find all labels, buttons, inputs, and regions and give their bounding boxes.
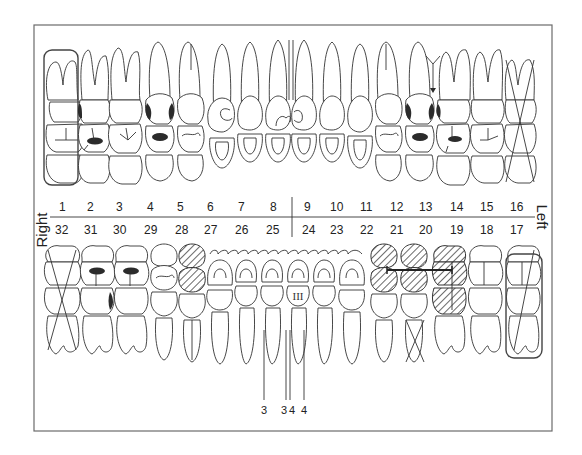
pocket-depth-label: 3 bbox=[281, 404, 287, 416]
tooth-number: 23 bbox=[330, 223, 344, 237]
tooth-32 bbox=[44, 246, 80, 354]
tooth-number: 7 bbox=[238, 200, 245, 214]
tooth-number: 27 bbox=[204, 223, 218, 237]
tooth-number: 4 bbox=[147, 200, 154, 214]
tooth-30 bbox=[114, 246, 148, 354]
tooth-number: 10 bbox=[330, 200, 344, 214]
tooth-number: 8 bbox=[270, 200, 277, 214]
tooth-number: 5 bbox=[177, 200, 184, 214]
tooth-19 bbox=[432, 246, 466, 354]
tooth-number: 32 bbox=[55, 223, 69, 237]
pocket-depth-label: 4 bbox=[301, 404, 307, 416]
tooth-number: 9 bbox=[304, 200, 311, 214]
mobility-grade-label: III bbox=[293, 290, 304, 302]
tooth-number: 22 bbox=[360, 223, 374, 237]
tooth-number: 2 bbox=[87, 200, 94, 214]
dental-chart: Right Left 1 2 3 4 5 6 7 8 9 10 11 12 13… bbox=[0, 0, 582, 455]
tooth-17 bbox=[506, 246, 542, 358]
tooth-number: 31 bbox=[84, 223, 98, 237]
right-label: Right bbox=[33, 212, 50, 248]
tooth-number: 24 bbox=[302, 223, 316, 237]
tooth-number: 3 bbox=[116, 200, 123, 214]
tooth-number: 19 bbox=[450, 223, 464, 237]
tooth-18 bbox=[468, 246, 502, 354]
tooth-number: 28 bbox=[175, 223, 189, 237]
tooth-31 bbox=[80, 246, 114, 354]
tooth-number: 29 bbox=[144, 223, 158, 237]
pocket-depth-label: 4 bbox=[289, 404, 295, 416]
tooth-number: 13 bbox=[419, 200, 433, 214]
pocket-depth-label: 3 bbox=[261, 404, 267, 416]
tooth-number: 20 bbox=[419, 223, 433, 237]
tooth-number: 6 bbox=[207, 200, 214, 214]
tooth-number: 21 bbox=[390, 223, 404, 237]
tooth-16 bbox=[504, 60, 536, 183]
tooth-number: 18 bbox=[480, 223, 494, 237]
tooth-number: 1 bbox=[59, 200, 66, 214]
tooth-number: 12 bbox=[390, 200, 404, 214]
tooth-number: 11 bbox=[360, 200, 373, 214]
tooth-number: 17 bbox=[510, 223, 524, 237]
tooth-number: 30 bbox=[113, 223, 127, 237]
left-label: Left bbox=[534, 204, 551, 230]
tooth-number: 26 bbox=[235, 223, 249, 237]
crown-hatch bbox=[179, 244, 205, 268]
tooth-number: 16 bbox=[510, 200, 524, 214]
tooth-number: 15 bbox=[480, 200, 494, 214]
tooth-number: 25 bbox=[266, 223, 280, 237]
tooth-number: 14 bbox=[450, 200, 464, 214]
